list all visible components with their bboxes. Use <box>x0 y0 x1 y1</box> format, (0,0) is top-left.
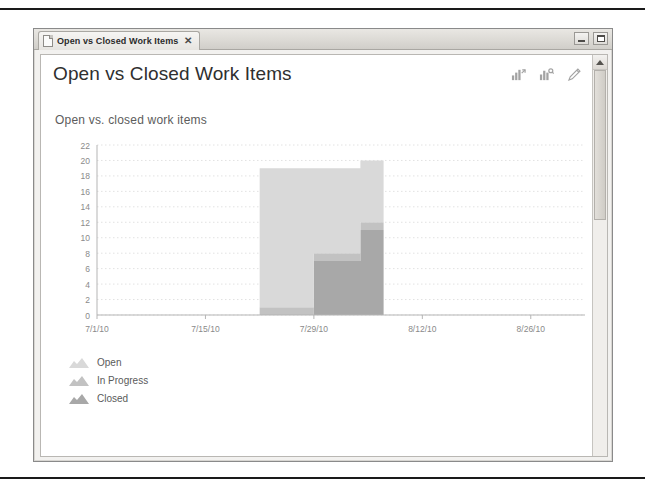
svg-text:14: 14 <box>81 202 91 212</box>
window-titlebar: Open vs Closed Work Items ✕ <box>34 29 612 50</box>
vertical-scrollbar[interactable] <box>592 55 607 456</box>
svg-text:8/26/10: 8/26/10 <box>517 324 546 334</box>
document-icon <box>43 35 53 47</box>
maximize-icon <box>597 35 605 42</box>
svg-text:7/15/10: 7/15/10 <box>191 324 220 334</box>
edit-pencil-icon[interactable] <box>567 67 582 82</box>
legend-item-label: Open <box>97 357 121 368</box>
svg-text:18: 18 <box>81 171 91 181</box>
chart-legend: OpenIn ProgressClosed <box>55 357 582 404</box>
window-client-area: Open vs Closed Work Items <box>40 54 608 457</box>
minimize-icon <box>578 40 585 42</box>
legend-swatch-icon <box>69 358 89 368</box>
legend-item-label: Closed <box>97 393 128 404</box>
application-window: Open vs Closed Work Items ✕ Open vs Clos… <box>33 28 613 462</box>
svg-text:4: 4 <box>85 280 90 290</box>
minimize-button[interactable] <box>574 32 589 45</box>
window-controls <box>574 32 608 45</box>
svg-text:8: 8 <box>85 249 90 259</box>
svg-text:8/12/10: 8/12/10 <box>408 324 437 334</box>
scrollbar-thumb[interactable] <box>594 70 606 220</box>
legend-item[interactable]: In Progress <box>69 375 582 386</box>
legend-item-label: In Progress <box>97 375 148 386</box>
legend-swatch-icon <box>69 394 89 404</box>
svg-text:2: 2 <box>85 295 90 305</box>
page-rule-top <box>0 8 645 10</box>
svg-text:6: 6 <box>85 264 90 274</box>
svg-text:7/29/10: 7/29/10 <box>300 324 329 334</box>
chart-block: Open vs. closed work items 0246810121416… <box>41 99 592 404</box>
editor-tab[interactable]: Open vs Closed Work Items ✕ <box>38 31 200 50</box>
svg-text:10: 10 <box>81 233 91 243</box>
svg-text:7/1/10: 7/1/10 <box>85 324 109 334</box>
chart-subtitle: Open vs. closed work items <box>55 113 582 127</box>
chevron-up-icon <box>596 60 604 65</box>
chart-plot-area: 02468101214161820227/1/107/15/107/29/108… <box>55 139 592 339</box>
scrollbar-track[interactable] <box>593 70 607 456</box>
scroll-up-button[interactable] <box>593 55 607 70</box>
maximize-button[interactable] <box>593 32 608 45</box>
svg-text:16: 16 <box>81 187 91 197</box>
svg-text:22: 22 <box>81 141 91 151</box>
page-header: Open vs Closed Work Items <box>41 55 592 99</box>
legend-item[interactable]: Closed <box>69 393 582 404</box>
editor-tab-label: Open vs Closed Work Items <box>57 36 178 46</box>
chart-options-icon[interactable] <box>539 67 554 82</box>
svg-text:12: 12 <box>81 218 91 228</box>
tab-close-icon[interactable]: ✕ <box>182 35 194 47</box>
page-title: Open vs Closed Work Items <box>53 63 582 85</box>
export-chart-icon[interactable] <box>511 67 526 82</box>
chart-svg: 02468101214161820227/1/107/15/107/29/108… <box>55 139 592 339</box>
editor-content: Open vs Closed Work Items <box>41 55 592 456</box>
svg-text:20: 20 <box>81 156 91 166</box>
svg-text:0: 0 <box>85 311 90 321</box>
legend-swatch-icon <box>69 376 89 386</box>
legend-item[interactable]: Open <box>69 357 582 368</box>
page-toolbar <box>511 67 582 82</box>
page-rule-bottom <box>0 477 645 479</box>
